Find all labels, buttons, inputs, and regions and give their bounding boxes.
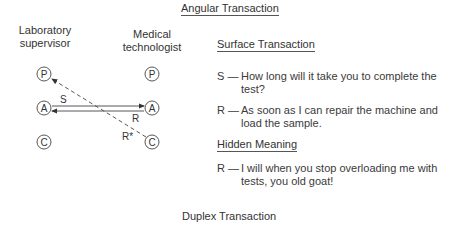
right-child-state: C (145, 135, 159, 149)
right-parent-state: P (145, 67, 159, 81)
stimulus-label: S (60, 94, 67, 105)
svg-text:P: P (149, 69, 156, 80)
right-adult-state: A (145, 101, 159, 115)
left-adult-state: A (37, 101, 51, 115)
surface-transaction-heading: Surface Transaction (217, 38, 315, 52)
duplex-transaction-title: Duplex Transaction (182, 210, 276, 222)
svg-text:A: A (41, 103, 48, 114)
left-parent-state: P (37, 67, 51, 81)
response-label: R (132, 113, 139, 124)
svg-text:A: A (149, 103, 156, 114)
hidden-meaning-heading: Hidden Meaning (217, 138, 297, 152)
hidden-response-arrow (52, 79, 146, 137)
left-child-state: C (37, 135, 51, 149)
hidden-response-label: R* (122, 131, 133, 142)
svg-text:P: P (41, 69, 48, 80)
svg-text:C: C (148, 137, 155, 148)
svg-text:C: C (40, 137, 47, 148)
